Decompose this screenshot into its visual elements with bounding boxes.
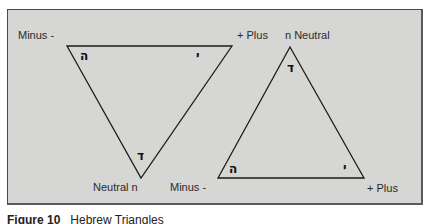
- right-plus-label: + Plus: [367, 183, 398, 194]
- hebrew-dalet-glyph: ד: [137, 150, 144, 162]
- left-plus-label: + Plus: [237, 30, 268, 41]
- left-inverted-triangle: [67, 46, 232, 178]
- hebrew-yod-glyph: י: [343, 162, 347, 174]
- hebrew-he-glyph: ה: [80, 50, 88, 62]
- hebrew-yod-glyph: י: [196, 50, 200, 62]
- right-neutral-label: n Neutral: [285, 30, 330, 41]
- hebrew-he-glyph: ה: [229, 163, 237, 175]
- hebrew-dalet-glyph: ד: [287, 62, 294, 74]
- figure-title: Hebrew Triangles: [70, 213, 163, 224]
- right-minus-label: Minus -: [170, 182, 206, 193]
- left-minus-label: Minus -: [18, 30, 54, 41]
- figure-number: Figure 10: [7, 213, 60, 224]
- figure-caption: Figure 10Hebrew Triangles: [7, 213, 164, 224]
- left-neutral-label: Neutral n: [93, 182, 138, 193]
